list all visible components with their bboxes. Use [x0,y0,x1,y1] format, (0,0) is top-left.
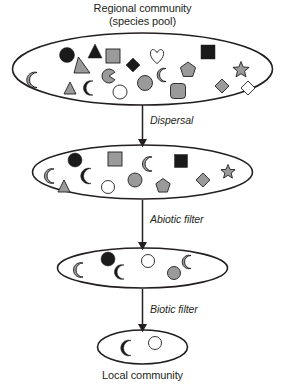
species-circle-black [101,252,115,266]
species-circle-white [113,85,127,99]
species-crescent-black [81,168,91,184]
species-diamond-gray [215,79,229,93]
species-crescent-gray [182,255,191,269]
species-circle-black [68,153,82,167]
species-square-black [175,155,188,168]
species-square-gray [108,152,122,166]
species-group-post-dispersal [44,152,235,194]
ellipse-regional-community-pool [13,33,273,105]
species-diamond-white [241,81,255,95]
species-circle-gray [128,173,142,187]
species-pacman-gray [102,69,115,83]
abiotic-filter-arrow-label: Abiotic filter [150,213,204,225]
species-crescent-black [83,81,93,96]
species-circle-gray [168,267,181,280]
species-circle-white [142,255,155,268]
species-triangle-gray [58,180,70,192]
species-star-gray [221,165,235,179]
community-assembly-diagram: Regional community (species pool) Disper… [0,0,285,386]
biotic-filter-arrow-label: Biotic filter [150,303,198,315]
species-square-gray [106,49,120,63]
species-circle-white [102,181,115,194]
species-diamond-black [126,58,140,72]
species-triangle-gray [64,82,76,94]
species-trapezoid-gray [74,57,90,73]
diagram-caption: Local community [0,369,285,382]
species-crescent-black [114,265,124,280]
species-pentagon-gray [156,179,170,193]
diagram-canvas [0,0,285,386]
species-pentagon-gray [180,62,195,76]
species-crescent-black [121,340,131,356]
species-heart-white [150,50,163,64]
species-triangle-black [88,44,102,58]
species-circle-gray [138,76,153,91]
species-crescent-gray [142,157,152,172]
species-group-regional [27,44,255,99]
species-square-black [201,45,215,59]
species-star-gray [233,62,249,77]
species-group-local [121,337,162,356]
species-circle-white [149,337,162,350]
ellipse-local-community-pool [98,330,188,364]
local-community-label: Local community [0,369,285,382]
species-diamond-gray [196,173,210,187]
species-group-post-abiotic [73,252,191,280]
dispersal-arrow-label: Dispersal [150,114,193,126]
species-crescent-gray [44,169,54,184]
species-circle-black [60,48,75,63]
ellipse-post-abiotic-filter-pool [58,248,228,288]
species-crescent-gray [73,263,83,278]
species-crescent-gray [157,68,166,82]
species-roundsq-gray [171,84,186,99]
